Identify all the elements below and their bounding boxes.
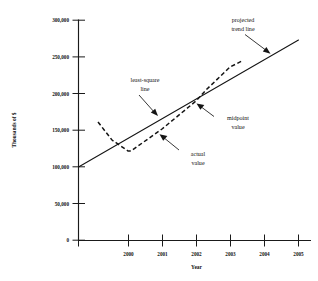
annotation-projected-trend-line-arrowhead [263, 47, 271, 54]
annotation-projected-trend-line-line1: projected [232, 17, 255, 23]
series-least-square-line [79, 40, 299, 167]
x-tick-label-2005: 2005 [293, 251, 304, 257]
annotation-projected-trend-line-leader [245, 35, 267, 52]
annotation-least-square-line-line2: line [140, 86, 149, 92]
annotation-actual-value-line2: value [191, 160, 204, 166]
series-actual-value [98, 61, 242, 151]
annotation-midpoint-value-line2: value [231, 124, 244, 130]
y-tick-label-200000: 200,000 [52, 91, 69, 97]
annotation-least-square-line-line1: least-square [130, 77, 159, 83]
chart-figure: 300,000 250,000 200,000 150,000 100,000 … [0, 0, 318, 281]
annotation-projected-trend-line: projected trend line [231, 17, 270, 54]
y-axis-tick-labels: 300,000 250,000 200,000 150,000 100,000 … [52, 17, 69, 243]
x-tick-label-2002: 2002 [191, 251, 202, 257]
y-tick-label-300000: 300,000 [52, 17, 69, 23]
x-axis-tick-labels: 2000 2001 2002 2003 2004 2005 [123, 251, 304, 257]
chart-canvas: 300,000 250,000 200,000 150,000 100,000 … [0, 0, 318, 281]
y-tick-label-250000: 250,000 [52, 54, 69, 60]
annotation-midpoint-value-line1: midpoint [227, 115, 249, 121]
annotation-actual-value-line1: actual [191, 151, 206, 157]
x-tick-label-2000: 2000 [123, 251, 134, 257]
y-tick-label-50000: 50,000 [55, 201, 70, 207]
annotation-actual-value-leader [163, 137, 179, 150]
x-axis-title: Year [191, 264, 202, 270]
y-tick-label-0: 0 [66, 237, 69, 243]
y-tick-label-100000: 100,000 [52, 164, 69, 170]
annotation-midpoint-value: midpoint value [197, 103, 250, 129]
x-tick-label-2004: 2004 [259, 251, 270, 257]
annotation-actual-value: actual value [160, 134, 206, 165]
annotation-projected-trend-line-line2: trend line [231, 26, 254, 32]
x-tick-label-2001: 2001 [157, 251, 168, 257]
x-tick-label-2003: 2003 [225, 251, 236, 257]
y-axis-title: Thousands of $ [11, 112, 17, 147]
annotation-least-square-line-leader [139, 95, 155, 113]
y-tick-label-150000: 150,000 [52, 127, 69, 133]
annotation-least-square-line: least-square line [130, 77, 159, 116]
